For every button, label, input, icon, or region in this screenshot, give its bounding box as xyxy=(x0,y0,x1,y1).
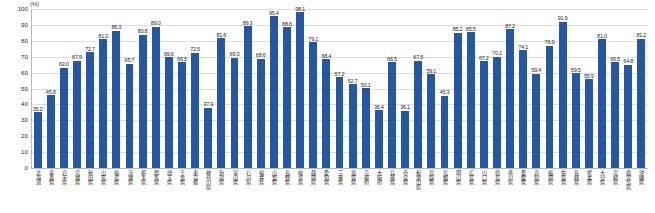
bar-value-label: 66.5 xyxy=(610,56,620,62)
y-axis-tick-label: 30 xyxy=(2,117,28,123)
x-axis-tick-slot: 熊本県 xyxy=(582,170,595,213)
x-axis-tick-label: 福岡県 xyxy=(547,170,552,184)
x-axis-tick-slot: 広島県 xyxy=(464,170,477,213)
bar: 89.3 xyxy=(244,26,252,168)
y-axis-tick-label: 60 xyxy=(2,70,28,76)
x-axis-tick-label: 愛知県 xyxy=(324,170,329,184)
x-axis-tick-label: 徳島県 xyxy=(494,170,499,184)
bar-slot: 45.8 xyxy=(44,9,57,168)
bar-value-label: 67.2 xyxy=(479,55,489,61)
bar-slot: 52.7 xyxy=(346,9,359,168)
x-axis-tick-label: 山口県 xyxy=(481,170,486,184)
bar-slot: 68.4 xyxy=(320,9,333,168)
bar-value-label: 81.6 xyxy=(216,32,226,38)
bar: 67.5 xyxy=(414,61,422,168)
bar: 98.1 xyxy=(296,12,304,168)
bar-slot: 35.2 xyxy=(31,9,44,168)
bar-slot: 67.2 xyxy=(477,9,490,168)
x-axis-tick-label: 静岡県 xyxy=(311,170,316,184)
x-axis-tick-label: 青森県 xyxy=(48,170,53,184)
x-axis-tick-slot: 静岡県 xyxy=(307,170,320,213)
x-axis-tick-label: 大阪府 xyxy=(376,170,381,184)
bar: 57.2 xyxy=(336,77,344,168)
bar: 59.1 xyxy=(427,74,435,168)
y-axis-tick-label: 20 xyxy=(2,133,28,139)
bar-slot: 91.9 xyxy=(556,9,569,168)
bar: 59.4 xyxy=(532,74,540,168)
bar: 70.1 xyxy=(493,57,501,168)
y-axis-tick-label: 100 xyxy=(2,6,28,12)
x-axis-tick-label: 富山県 xyxy=(232,170,237,184)
x-axis-tick-label: 茨城県 xyxy=(127,170,132,184)
bar-value-label: 87.2 xyxy=(505,23,515,29)
bar: 81.0 xyxy=(99,39,107,168)
y-axis-tick-label: 40 xyxy=(2,101,28,107)
bar-slot: 50.1 xyxy=(359,9,372,168)
bar: 45.8 xyxy=(47,95,55,168)
x-axis-tick-label: 鳥取県 xyxy=(429,170,434,184)
bar-value-label: 72.5 xyxy=(190,46,200,52)
bar: 69.3 xyxy=(231,58,239,168)
bar-slot: 65.7 xyxy=(123,9,136,168)
bar-slot: 81.6 xyxy=(215,9,228,168)
bar-slot: 74.1 xyxy=(517,9,530,168)
bar-slot: 45.3 xyxy=(438,9,451,168)
x-axis-tick-slot: 岐阜県 xyxy=(294,170,307,213)
x-axis-tick-label: 兵庫県 xyxy=(389,170,394,184)
bar: 88.6 xyxy=(283,27,291,168)
x-axis-tick-slot: 佐賀県 xyxy=(556,170,569,213)
bar-slot: 85.5 xyxy=(464,9,477,168)
x-axis-tick-slot: 栃木県 xyxy=(136,170,149,213)
bar: 83.8 xyxy=(139,35,147,168)
x-axis-tick-slot: 福井県 xyxy=(254,170,267,213)
x-axis-tick-label: 山形県 xyxy=(101,170,106,184)
x-axis-tick-label: 奈良県 xyxy=(402,170,407,184)
bar: 68.4 xyxy=(322,59,330,168)
bar: 89.0 xyxy=(152,27,160,169)
x-axis-tick-slot: 山形県 xyxy=(97,170,110,213)
x-axis-tick-label: 埼玉県 xyxy=(166,170,171,184)
bar: 85.5 xyxy=(467,32,475,168)
bar: 85.2 xyxy=(454,33,462,168)
x-axis-tick-label: 福島県 xyxy=(114,170,119,184)
bar-value-label: 57.2 xyxy=(335,71,345,77)
bar-value-label: 98.1 xyxy=(295,6,305,12)
x-axis-tick-label: 滋賀県 xyxy=(350,170,355,184)
bar: 63.0 xyxy=(60,68,68,168)
x-axis-tick-label: 東京都 xyxy=(192,170,197,184)
bar-value-label: 36.1 xyxy=(400,104,410,110)
bar-slot: 57.2 xyxy=(333,9,346,168)
bar-value-label: 67.5 xyxy=(72,54,82,60)
bar-value-label: 68.6 xyxy=(256,52,266,58)
x-axis-tick-slot: 宮崎県 xyxy=(609,170,622,213)
bar-slot: 66.5 xyxy=(609,9,622,168)
bar: 67.5 xyxy=(73,61,81,168)
bar-slot: 81.0 xyxy=(97,9,110,168)
bar-slot: 37.9 xyxy=(202,9,215,168)
bar-value-label: 91.9 xyxy=(558,15,568,21)
bar-value-label: 81.2 xyxy=(636,32,646,38)
x-axis-tick-slot: 山梨県 xyxy=(267,170,280,213)
bar-value-label: 55.9 xyxy=(584,73,594,79)
x-axis-tick-label: 香川県 xyxy=(507,170,512,184)
x-axis-tick-slot: 奈良県 xyxy=(399,170,412,213)
bar-value-label: 69.3 xyxy=(230,51,240,57)
x-axis-tick-label: 福井県 xyxy=(258,170,263,184)
x-axis-tick-label: 和歌山県 xyxy=(416,170,421,188)
x-axis-tick-slot: 福島県 xyxy=(110,170,123,213)
bar-slot: 88.6 xyxy=(280,9,293,168)
x-axis-tick-slot: 富山県 xyxy=(228,170,241,213)
bar: 65.7 xyxy=(126,64,134,168)
bar-value-label: 95.4 xyxy=(269,10,279,16)
x-axis-tick-label: 栃木県 xyxy=(140,170,145,184)
x-axis-tick-slot: 新潟県 xyxy=(215,170,228,213)
bar: 35.2 xyxy=(34,112,42,168)
x-axis-tick-label: 愛媛県 xyxy=(521,170,526,184)
bar-slot: 72.5 xyxy=(189,9,202,168)
bar: 36.4 xyxy=(375,110,383,168)
bar-slot: 68.6 xyxy=(254,9,267,168)
x-axis-tick-label: 神奈川県 xyxy=(206,170,211,188)
x-axis-tick-slot: 滋賀県 xyxy=(346,170,359,213)
x-axis-tick-label: 沖縄県 xyxy=(639,170,644,184)
x-axis-tick-slot: 和歌山県 xyxy=(412,170,425,213)
